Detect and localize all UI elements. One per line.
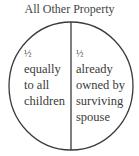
fraction-label: ½ xyxy=(76,47,125,61)
section-spouse: ½ already owned by surviving spouse xyxy=(76,47,125,125)
section-text-line: owned by xyxy=(76,77,125,93)
section-text-line: already xyxy=(76,61,125,77)
section-text-line: to all xyxy=(24,77,65,93)
fraction-label: ½ xyxy=(24,47,65,61)
section-text-line: equally xyxy=(24,61,65,77)
section-children: ½ equally to all children xyxy=(24,47,65,109)
section-text-line: spouse xyxy=(76,109,125,125)
section-text-line: surviving xyxy=(76,93,125,109)
section-text-line: children xyxy=(24,93,65,109)
